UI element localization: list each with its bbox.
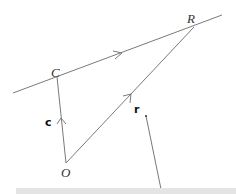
vector-oc [57,77,66,163]
vector-or [66,27,194,163]
pointer-line [146,116,162,194]
vector-label-r: r [134,104,139,115]
point-label-c: C [51,66,60,79]
vector-label-c: c [45,117,52,128]
pointer-dot [145,115,147,117]
point-label-o: O [61,166,70,179]
line-through-c-r [13,15,222,93]
diagram-lines [0,0,236,194]
point-label-r: R [187,12,195,25]
vector-diagram: C R O c r [0,0,236,194]
bottom-bar [16,188,236,194]
